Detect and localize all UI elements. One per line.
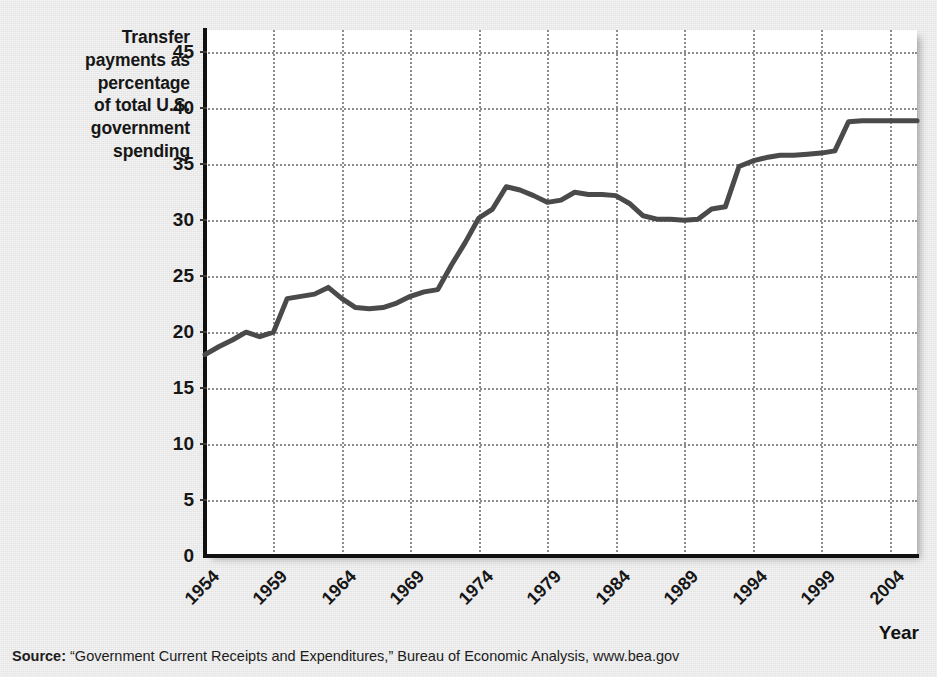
transfer-payments-line <box>205 121 917 355</box>
y-tick-label-25: 25 <box>138 265 194 287</box>
x-tick-label-1994: 1994 <box>717 566 771 620</box>
y-axis-title-line-3: percentage <box>8 72 190 95</box>
source-label: Source: <box>12 648 66 664</box>
x-tick-label-1989: 1989 <box>649 566 703 620</box>
source-note: Source: “Government Current Receipts and… <box>12 648 679 664</box>
y-tick-label-45: 45 <box>138 41 194 63</box>
x-tick-label-1969: 1969 <box>375 566 429 620</box>
y-tick-label-5: 5 <box>138 489 194 511</box>
figure-canvas: Transfer payments as percentage of total… <box>0 0 937 677</box>
y-tick-label-30: 30 <box>138 209 194 231</box>
y-tick-label-15: 15 <box>138 377 194 399</box>
y-tick-label-10: 10 <box>138 433 194 455</box>
y-axis-title-line-5: government <box>8 117 190 140</box>
y-tick-label-35: 35 <box>138 153 194 175</box>
x-axis-title: Year <box>879 622 919 644</box>
source-text: “Government Current Receipts and Expendi… <box>70 648 679 664</box>
y-tick-label-20: 20 <box>138 321 194 343</box>
x-tick-label-1974: 1974 <box>443 566 497 620</box>
y-tick-label-0: 0 <box>138 545 194 567</box>
x-tick-label-1964: 1964 <box>306 566 360 620</box>
data-series-line <box>205 30 917 556</box>
x-tick-label-1984: 1984 <box>580 566 634 620</box>
x-tick-label-1959: 1959 <box>238 566 292 620</box>
y-tick-label-40: 40 <box>138 97 194 119</box>
x-tick-label-2004: 2004 <box>854 566 908 620</box>
x-tick-label-1999: 1999 <box>786 566 840 620</box>
x-tick-label-1954: 1954 <box>169 566 223 620</box>
x-tick-label-1979: 1979 <box>512 566 566 620</box>
